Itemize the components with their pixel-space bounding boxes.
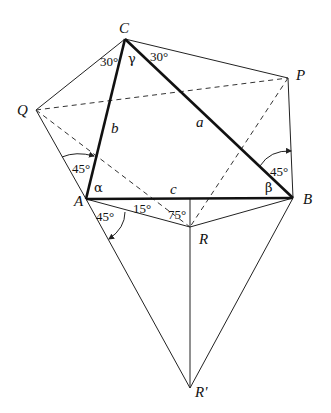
arc-angle-A-upper: [62, 154, 94, 157]
label-Q: Q: [17, 102, 28, 118]
dashed-Q-P: [36, 78, 288, 110]
label-side-a: a: [196, 114, 204, 130]
segment-P-B: [288, 78, 293, 198]
side-c: [86, 198, 293, 199]
dashed-P-R: [190, 78, 288, 227]
segment-R-B: [190, 198, 293, 227]
label-angle-C-left: 30°: [100, 54, 118, 69]
label-P: P: [295, 67, 305, 83]
label-angle-A-R: 15°: [133, 201, 151, 216]
label-angle-A-lower: 45°: [96, 209, 114, 224]
label-beta: β: [265, 180, 273, 195]
label-R: R: [198, 231, 208, 247]
segment-C-Q: [36, 39, 125, 110]
label-side-c: c: [170, 181, 177, 197]
segment-A-Rprime: [86, 199, 190, 388]
label-gamma: γ: [128, 51, 136, 66]
segment-Q-A: [36, 110, 86, 199]
label-C: C: [119, 20, 130, 36]
label-angle-R-A: 75°: [168, 207, 186, 222]
geometry-diagram: C P Q A B R R' a b c α β γ 30° 30° 45° 4…: [0, 0, 331, 413]
label-angle-A-upper: 45°: [72, 161, 90, 176]
label-angle-B-upper: 45°: [270, 164, 288, 179]
segment-B-Rprime: [190, 198, 293, 388]
label-angle-C-right: 30°: [150, 49, 168, 64]
label-B: B: [303, 191, 312, 207]
label-A: A: [73, 193, 84, 209]
label-alpha: α: [94, 180, 103, 195]
label-R-prime: R': [194, 384, 208, 400]
label-side-b: b: [111, 120, 119, 136]
